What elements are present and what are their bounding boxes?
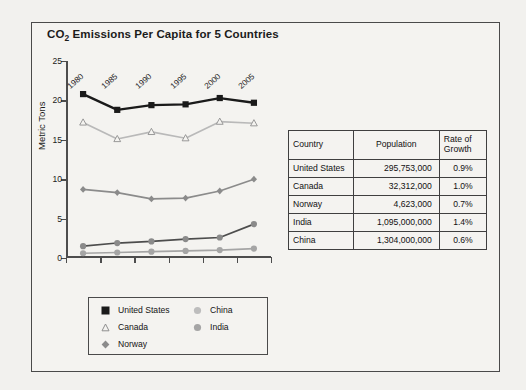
data-point-marker	[80, 250, 86, 256]
cell-country: Canada	[289, 178, 354, 196]
data-point-marker	[148, 249, 154, 255]
legend-item-india[interactable]: India	[192, 322, 229, 332]
data-point-marker	[148, 102, 154, 108]
data-point-marker	[217, 188, 223, 195]
header-rate-of-growth: Rate of Growth	[439, 131, 486, 160]
data-point-marker	[217, 247, 223, 253]
series-norway	[80, 176, 257, 203]
cell-rate-of-growth: 1.4%	[439, 214, 486, 232]
header-country: Country	[289, 131, 354, 160]
header-population: Population	[353, 131, 439, 160]
data-point-marker	[80, 91, 86, 97]
series-canada	[80, 118, 258, 142]
cell-rate-of-growth: 0.6%	[439, 232, 486, 250]
filled-square-icon	[100, 306, 111, 315]
data-point-marker	[80, 119, 87, 125]
data-point-marker	[114, 107, 120, 113]
data-point-marker	[217, 234, 223, 240]
chart-title-rest: Emissions Per Capita for 5 Countries	[69, 28, 278, 40]
series-china	[80, 221, 257, 249]
series-line	[83, 94, 254, 110]
y-tick-label: 0	[57, 253, 62, 263]
data-point-marker	[148, 196, 154, 203]
legend-item-united-states[interactable]: United States	[100, 305, 170, 315]
legend-item-norway[interactable]: Norway	[100, 339, 147, 349]
cell-rate-of-growth: 0.9%	[439, 160, 486, 178]
series-united-states	[80, 91, 257, 113]
legend-item-label: Norway	[118, 339, 147, 349]
y-tick-label: 20	[53, 95, 62, 105]
y-tick-label: 10	[53, 174, 62, 184]
data-point-marker	[148, 238, 154, 244]
cell-country: China	[289, 232, 354, 250]
data-point-marker	[148, 128, 155, 134]
chart-title: CO2 Emissions Per Capita for 5 Countries	[47, 28, 279, 43]
filled-diamond-icon	[100, 340, 111, 349]
table-header-row: Country Population Rate of Growth	[289, 131, 487, 160]
plot-area: 2520151050 198019851990199520002005	[66, 58, 271, 258]
cell-population: 32,312,000	[353, 178, 439, 196]
data-point-marker	[80, 186, 86, 193]
data-point-marker	[251, 221, 257, 227]
cell-country: Norway	[289, 196, 354, 214]
chart-legend: United StatesCanadaNorwayChinaIndia	[88, 297, 268, 355]
legend-item-canada[interactable]: Canada	[100, 322, 148, 332]
legend-item-china[interactable]: China	[192, 305, 232, 315]
cell-country: United States	[289, 160, 354, 178]
series-plot	[66, 58, 271, 258]
legend-item-label: Canada	[118, 322, 148, 332]
table-row: Canada32,312,0001.0%	[289, 178, 487, 196]
y-tick-label: 15	[53, 135, 62, 145]
data-point-marker	[182, 195, 188, 202]
header-rate-line2: Growth	[444, 144, 472, 154]
data-point-marker	[182, 236, 188, 242]
data-point-marker	[80, 243, 86, 249]
data-point-marker	[114, 189, 120, 196]
data-point-marker	[251, 176, 257, 183]
filled-circle-icon	[192, 323, 203, 332]
cell-population: 1,095,000,000	[353, 214, 439, 232]
series-line	[83, 249, 254, 254]
series-line	[83, 224, 254, 246]
cell-population: 1,304,000,000	[353, 232, 439, 250]
y-axis-title: Metric Tons	[36, 102, 47, 150]
table-row: China1,304,000,0000.6%	[289, 232, 487, 250]
cell-population: 295,753,000	[353, 160, 439, 178]
data-point-marker	[217, 95, 223, 101]
legend-item-label: India	[210, 322, 229, 332]
table-row: Norway4,623,0000.7%	[289, 196, 487, 214]
open-triangle-icon	[100, 323, 111, 332]
cell-rate-of-growth: 1.0%	[439, 178, 486, 196]
y-tick-label: 5	[57, 214, 62, 224]
data-point-marker	[182, 101, 188, 107]
legend-item-label: United States	[118, 305, 170, 315]
data-point-marker	[251, 245, 257, 251]
series-line	[83, 122, 254, 139]
chart-title-co: CO	[47, 28, 64, 40]
cell-country: India	[289, 214, 354, 232]
x-tick-mark	[271, 257, 272, 263]
data-point-marker	[182, 248, 188, 254]
series-india	[80, 245, 257, 256]
data-point-marker	[114, 249, 120, 255]
legend-item-label: China	[210, 305, 232, 315]
header-rate-line1: Rate of	[444, 134, 472, 144]
table-row: United States295,753,0000.9%	[289, 160, 487, 178]
series-line	[83, 179, 254, 199]
filled-circle-light-icon	[192, 306, 203, 315]
population-table: Country Population Rate of Growth United…	[288, 130, 487, 250]
cell-rate-of-growth: 0.7%	[439, 196, 486, 214]
table-row: India1,095,000,0001.4%	[289, 214, 487, 232]
data-point-marker	[251, 100, 257, 106]
cell-population: 4,623,000	[353, 196, 439, 214]
data-point-marker	[114, 240, 120, 246]
y-tick-label: 25	[53, 56, 62, 66]
